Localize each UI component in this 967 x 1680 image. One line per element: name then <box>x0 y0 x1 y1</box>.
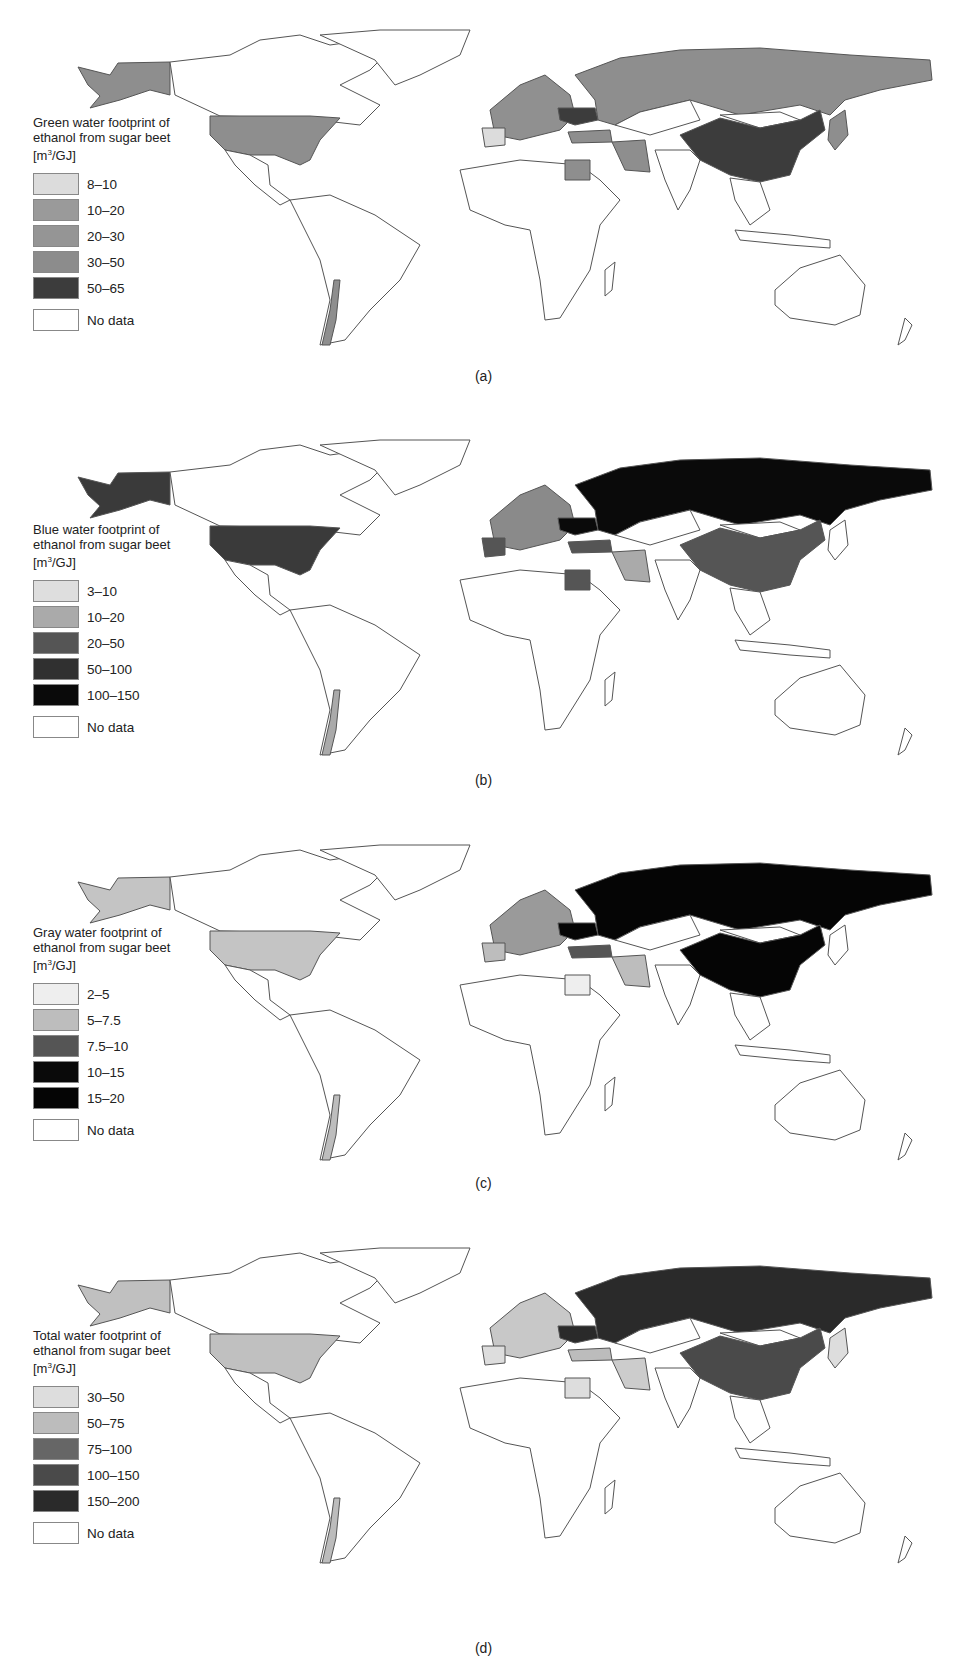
panel-caption: (b) <box>0 772 967 788</box>
legend-item: 10–20 <box>33 197 213 223</box>
region-australia <box>775 1070 865 1140</box>
region-madagascar <box>605 672 615 706</box>
legend-item: 20–50 <box>33 630 213 656</box>
region-spain <box>482 943 505 962</box>
legend-swatch <box>33 983 79 1005</box>
legend-label: 100–150 <box>87 688 140 703</box>
region-japan <box>828 925 848 965</box>
legend-items: 3–1010–2020–5050–100100–150No data <box>33 578 213 740</box>
region-indonesia <box>735 1448 830 1466</box>
region-se-asia <box>730 588 770 635</box>
legend-swatch <box>33 1522 79 1544</box>
legend-label: No data <box>87 313 134 328</box>
legend-swatch <box>33 1009 79 1031</box>
region-se-asia <box>730 178 770 225</box>
region-turkey <box>568 540 612 553</box>
legend-swatch <box>33 199 79 221</box>
legend-label: No data <box>87 720 134 735</box>
legend-swatch <box>33 684 79 706</box>
region-new-zealand <box>898 1536 912 1563</box>
legend-items: 8–1010–2020–3030–5050–65No data <box>33 171 213 333</box>
legend-swatch <box>33 658 79 680</box>
legend-label: 150–200 <box>87 1494 140 1509</box>
region-japan <box>828 1328 848 1368</box>
region-alaska <box>78 877 170 923</box>
legend-label: 3–10 <box>87 584 117 599</box>
legend-swatch <box>33 580 79 602</box>
legend-label: 10–20 <box>87 203 125 218</box>
region-south-america <box>290 605 420 755</box>
map-legend: Gray water footprint of ethanol from sug… <box>33 925 213 1143</box>
legend-item: 50–75 <box>33 1410 213 1436</box>
region-india <box>655 150 700 210</box>
legend-label: 7.5–10 <box>87 1039 128 1054</box>
legend-swatch <box>33 1061 79 1083</box>
legend-title: Total water footprint of ethanol from su… <box>33 1328 213 1376</box>
legend-item: 2–5 <box>33 981 213 1007</box>
region-japan <box>828 110 848 150</box>
region-spain <box>482 538 505 557</box>
legend-item: No data <box>33 307 213 333</box>
legend-label: 20–30 <box>87 229 125 244</box>
legend-item: 10–15 <box>33 1059 213 1085</box>
legend-label: No data <box>87 1526 134 1541</box>
legend-swatch <box>33 277 79 299</box>
region-new-zealand <box>898 1133 912 1160</box>
region-africa <box>460 570 620 730</box>
region-iran <box>612 140 650 172</box>
legend-label: 100–150 <box>87 1468 140 1483</box>
region-africa <box>460 975 620 1135</box>
legend-swatch <box>33 1087 79 1109</box>
region-indonesia <box>735 1045 830 1063</box>
legend-item: No data <box>33 1117 213 1143</box>
region-india <box>655 560 700 620</box>
legend-swatch <box>33 225 79 247</box>
region-japan <box>828 520 848 560</box>
legend-item: 15–20 <box>33 1085 213 1111</box>
panel-caption: (a) <box>0 368 967 384</box>
region-south-america <box>290 1413 420 1563</box>
legend-swatch <box>33 1464 79 1486</box>
legend-label: 10–20 <box>87 610 125 625</box>
region-alaska <box>78 62 170 108</box>
legend-item: 50–65 <box>33 275 213 301</box>
region-australia <box>775 665 865 735</box>
map-legend: Blue water footprint of ethanol from sug… <box>33 522 213 740</box>
legend-item: 10–20 <box>33 604 213 630</box>
legend-item: 8–10 <box>33 171 213 197</box>
region-india <box>655 1368 700 1428</box>
legend-label: 50–100 <box>87 662 132 677</box>
legend-label: 50–65 <box>87 281 125 296</box>
legend-swatch <box>33 1412 79 1434</box>
legend-item: 20–30 <box>33 223 213 249</box>
legend-item: 100–150 <box>33 682 213 708</box>
map-legend: Green water footprint of ethanol from su… <box>33 115 213 333</box>
region-australia <box>775 255 865 325</box>
legend-items: 30–5050–7575–100100–150150–200No data <box>33 1384 213 1546</box>
region-egypt <box>565 975 590 995</box>
region-south-america <box>290 1010 420 1160</box>
legend-swatch <box>33 251 79 273</box>
region-iran <box>612 550 650 582</box>
legend-item: 100–150 <box>33 1462 213 1488</box>
region-indonesia <box>735 640 830 658</box>
legend-item: 50–100 <box>33 656 213 682</box>
legend-item: No data <box>33 1520 213 1546</box>
region-egypt <box>565 1378 590 1398</box>
legend-item: No data <box>33 714 213 740</box>
legend-items: 2–55–7.57.5–1010–1515–20No data <box>33 981 213 1143</box>
legend-label: No data <box>87 1123 134 1138</box>
region-madagascar <box>605 1480 615 1514</box>
region-south-america <box>290 195 420 345</box>
legend-swatch <box>33 716 79 738</box>
legend-title: Green water footprint of ethanol from su… <box>33 115 213 163</box>
legend-label: 50–75 <box>87 1416 125 1431</box>
legend-title: Gray water footprint of ethanol from sug… <box>33 925 213 973</box>
legend-swatch <box>33 1438 79 1460</box>
region-egypt <box>565 570 590 590</box>
region-madagascar <box>605 1077 615 1111</box>
region-iran <box>612 955 650 987</box>
region-mexico <box>225 150 290 205</box>
legend-swatch <box>33 173 79 195</box>
map-legend: Total water footprint of ethanol from su… <box>33 1328 213 1546</box>
